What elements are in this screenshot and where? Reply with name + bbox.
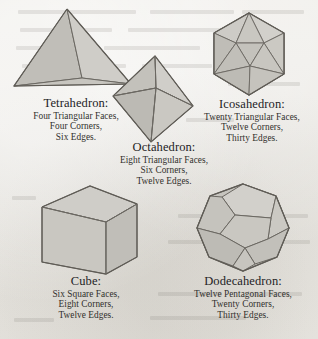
solid-name-icosahedron: Icosahedron:: [186, 97, 318, 111]
solid-name-dodecahedron: Dodecahedron:: [168, 274, 318, 288]
caption-dodecahedron: Dodecahedron: Twelve Pentagonal Faces, T…: [168, 274, 318, 320]
octahedron-face-lower-left: [113, 88, 156, 142]
solid-fact-dodecahedron-corners: Twenty Corners,: [168, 299, 318, 309]
solid-fact-dodecahedron-edges: Thirty Edges.: [168, 310, 318, 320]
solid-fact-octahedron-corners: Six Corners,: [96, 165, 232, 175]
solid-fact-cube-faces: Six Square Faces,: [16, 289, 156, 299]
figure-dodecahedron: [193, 182, 293, 274]
platonic-solids-diagram: Tetrahedron: Four Triangular Faces, Four…: [0, 0, 318, 339]
caption-icosahedron: Icosahedron: Twenty Triangular Faces, Tw…: [186, 97, 318, 143]
solid-fact-icosahedron-corners: Twelve Corners,: [186, 122, 318, 132]
solid-fact-dodecahedron-faces: Twelve Pentagonal Faces,: [168, 289, 318, 299]
caption-cube: Cube: Six Square Faces, Eight Corners, T…: [16, 274, 156, 320]
solid-fact-icosahedron-edges: Thirty Edges.: [186, 133, 318, 143]
figure-cube: [38, 183, 142, 277]
solid-fact-cube-corners: Eight Corners,: [16, 299, 156, 309]
solid-fact-icosahedron-faces: Twenty Triangular Faces,: [186, 112, 318, 122]
caption-octahedron: Octahedron: Eight Triangular Faces, Six …: [96, 140, 232, 186]
figure-icosahedron: [206, 10, 292, 98]
solid-fact-octahedron-faces: Eight Triangular Faces,: [96, 155, 232, 165]
solid-name-cube: Cube:: [16, 274, 156, 288]
solid-fact-cube-edges: Twelve Edges.: [16, 310, 156, 320]
